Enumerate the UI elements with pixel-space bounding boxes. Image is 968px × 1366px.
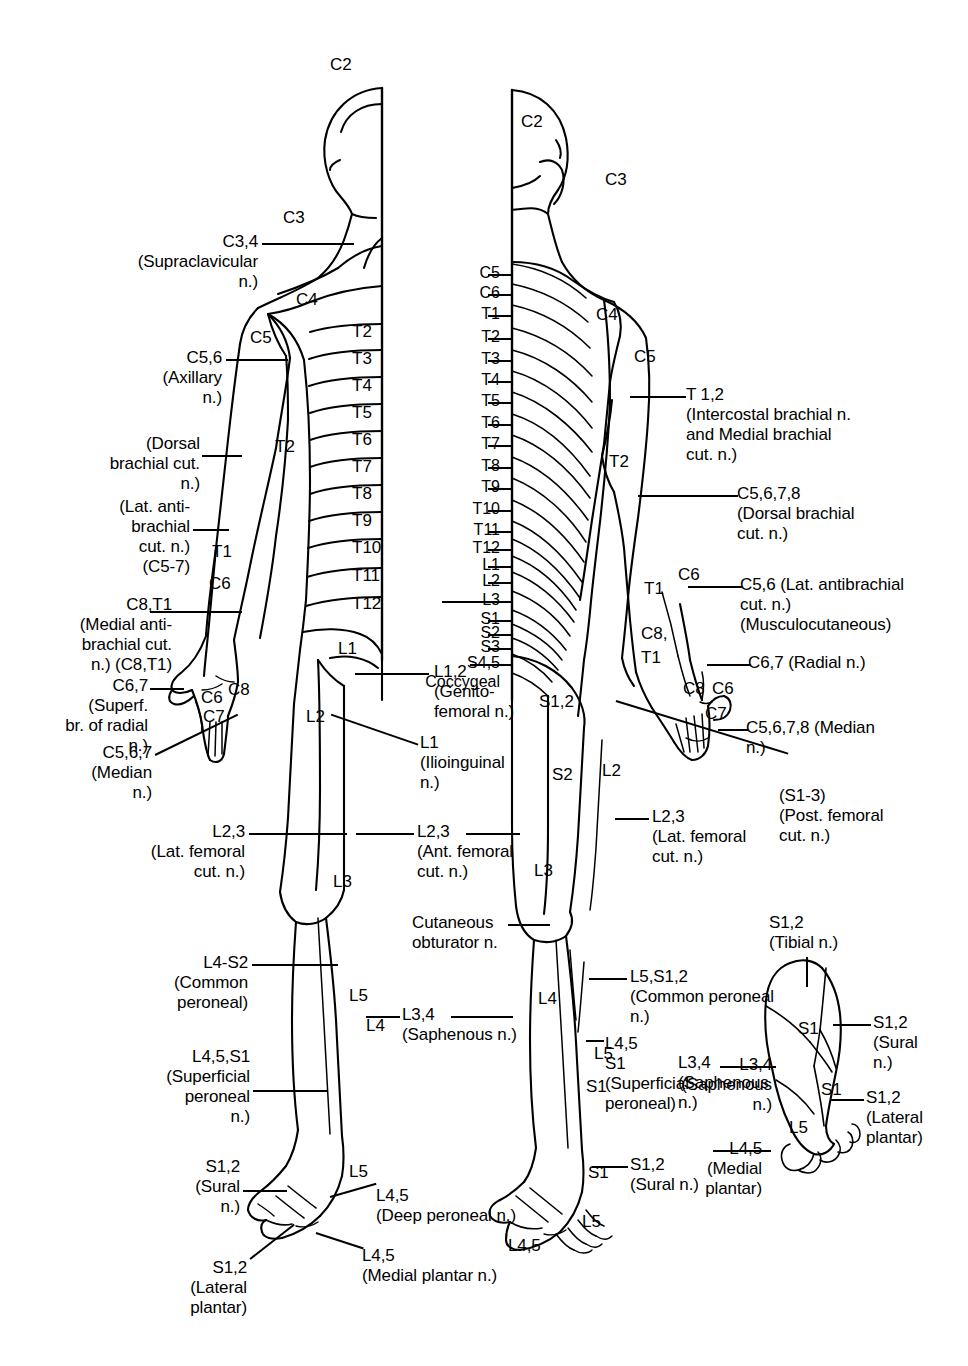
callout-medial-plantar-foot-line-1: (Medial (705, 1159, 762, 1179)
callout-c56-axillary: C5,6(Axillaryn.) (162, 348, 222, 408)
callout-deep-peroneal-line-0: L4,5 (376, 1186, 516, 1206)
callout-genitofemoral-leader (355, 673, 429, 675)
callout-sural-left-line-1: (Sural (195, 1177, 240, 1197)
callout-ilioinguinal-line-1: (Ilioinguinal (420, 753, 505, 773)
callout-lateral-plantar-left-line-0: S1,2 (190, 1258, 247, 1278)
callout-c56-axillary-line-1: (Axillary (162, 368, 222, 388)
spine-level-t5: T5 (481, 392, 500, 410)
callout-medial-antibrachial-cut-line-3: n.) (C8,T1) (80, 655, 172, 675)
foot-segment-s1: S1 (798, 1019, 819, 1039)
callout-superficial-peroneal-left: L4,5,S1(Superficialperonealn.) (166, 1047, 250, 1127)
callout-cutaneous-obturator: Cutaneousobturator n. (412, 913, 498, 953)
callout-radial-n: C6,7 (Radial n.) (748, 653, 865, 673)
callout-saphenous-center-leader-left (366, 1016, 400, 1018)
posterior-segment-c5: C5 (634, 347, 656, 367)
callout-median-n-right-line-0: C5,6,7,8 (Median (746, 718, 875, 738)
callout-dorsal-brachial-cut-right: C5,6,7,8(Dorsal brachialcut. n.) (737, 484, 854, 544)
callout-dorsal-brachial-cut-leader (202, 455, 242, 457)
callout-lat-femoral-cut-post-line-1: (Lat. femoral (652, 827, 746, 847)
callout-dorsal-brachial-cut-line-1: brachial cut. (110, 454, 200, 474)
spine-level-c5: C5 (480, 264, 500, 282)
callout-lat-antibrachial-cut-line-0: (Lat. anti- (119, 497, 190, 517)
callout-superficial-peroneal-left-line-2: peroneal (166, 1087, 250, 1107)
callout-medial-antibrachial-cut-line-2: brachial cut. (80, 635, 172, 655)
callout-lat-antibrachial-cut-line-1: brachial (119, 517, 190, 537)
anterior-band-t3: T3 (352, 349, 372, 369)
callout-genitofemoral-line-2: femoral n.) (434, 702, 514, 722)
anterior-segment-l5: L5 (349, 1162, 368, 1182)
callout-intercostal-brachial-leader (630, 396, 686, 398)
callout-medial-antibrachial-cut-leader (150, 611, 242, 613)
callout-common-peroneal-left-line-2: peroneal) (174, 993, 248, 1013)
callout-cutaneous-obturator-leader (508, 924, 550, 926)
posterior-segment-c3: C3 (605, 170, 627, 190)
callout-lat-femoral-cut-ant: L2,3(Lat. femoralcut. n.) (151, 822, 245, 882)
callout-superficial-peroneal-left-line-3: n.) (166, 1107, 250, 1127)
callout-ilioinguinal-line-0: L1 (420, 733, 505, 753)
callout-radial-n-leader (707, 664, 751, 666)
callout-superficial-peroneal-right-leader (586, 1040, 604, 1042)
callout-ant-femoral-cut-line-2: cut. n.) (417, 862, 513, 882)
callout-post-femoral-cut-line-0: (S1-3) (779, 786, 883, 806)
callout-saphenous-center: L3,4(Saphenous n.) (402, 1005, 517, 1045)
callout-intercostal-brachial-line-2: and Medial brachial (686, 425, 851, 445)
callout-superficial-peroneal-right-line-3: peroneal) (605, 1094, 689, 1114)
callout-sural-n-foot-line-1: (Sural (873, 1033, 918, 1053)
callout-c34-supraclavicular: C3,4(Supraclavicularn.) (138, 232, 258, 292)
callout-intercostal-brachial: T 1,2(Intercostal brachial n.and Medial … (686, 385, 851, 465)
spine-leader-line (488, 360, 512, 362)
anterior-segment-c2: C2 (330, 55, 352, 75)
spine-level-t11: T11 (474, 521, 500, 539)
callout-lateral-plantar-left-line-2: plantar) (190, 1298, 247, 1318)
callout-sural-n-foot-line-2: n.) (873, 1053, 918, 1073)
callout-ilioinguinal: L1(Ilioinguinaln.) (420, 733, 505, 793)
spine-level-t9: T9 (481, 478, 500, 496)
posterior-segment-t1: T1 (644, 579, 664, 599)
posterior-segment-c7: C7 (705, 704, 727, 724)
posterior-segment-s1-2: S1,2 (539, 692, 574, 712)
spine-leader-line (488, 402, 512, 404)
spine-level-t1: T1 (481, 305, 500, 323)
callout-medial-antibrachial-cut-line-1: (Medial anti- (80, 615, 172, 635)
spine-leader-line (488, 381, 512, 383)
callout-common-peroneal-left: L4-S2(Commonperoneal) (174, 953, 248, 1013)
callout-dorsal-brachial-cut-line-2: n.) (110, 474, 200, 494)
callout-medial-plantar-n: L4,5(Medial plantar n.) (362, 1246, 497, 1286)
callout-common-peroneal-left-line-0: L4-S2 (174, 953, 248, 973)
callout-lat-femoral-cut-ant-line-1: (Lat. femoral (151, 842, 245, 862)
anterior-segment-c3: C3 (283, 208, 305, 228)
spine-level-t10: T10 (472, 500, 500, 518)
callout-c34-supraclavicular-line-0: C3,4 (138, 232, 258, 252)
posterior-segment-c8-: C8, (641, 624, 667, 644)
spine-leader-line (488, 445, 512, 447)
callout-median-n: C5,6,7(Mediann.) (91, 743, 152, 803)
anterior-segment-l1: L1 (338, 639, 357, 659)
callout-median-n-right-leader (718, 729, 748, 731)
posterior-segment-l3: L3 (534, 861, 553, 881)
callout-common-peroneal-right: L5,S1,2(Common peronealn.) (630, 967, 774, 1027)
spine-leader-line (488, 531, 512, 533)
callout-median-n-right-line-1: n.) (746, 738, 875, 758)
callout-medial-plantar-n-line-1: (Medial plantar n.) (362, 1266, 497, 1286)
callout-superf-br-radial-line-1: (Superf. (65, 696, 148, 716)
callout-post-femoral-cut: (S1-3)(Post. femoralcut. n.) (779, 786, 883, 846)
callout-ant-femoral-cut: L2,3(Ant. femoralcut. n.) (417, 822, 513, 882)
spine-leader-line (488, 424, 512, 426)
callout-genitofemoral-line-1: (Genito- (434, 682, 514, 702)
foot-segment-s1: S1 (821, 1080, 842, 1100)
callout-sural-right-leader (592, 1166, 628, 1168)
callout-common-peroneal-left-line-1: (Common (174, 973, 248, 993)
anterior-band-t8: T8 (352, 484, 372, 504)
callout-lateral-plantar-foot-line-1: (Lateral (866, 1108, 923, 1128)
anterior-band-t6: T6 (352, 430, 372, 450)
callout-common-peroneal-right-leader (589, 978, 627, 980)
posterior-segment-c6: C6 (678, 565, 700, 585)
callout-lat-femoral-cut-ant-line-0: L2,3 (151, 822, 245, 842)
callout-lat-femoral-cut-post-leader (615, 818, 649, 820)
callout-sural-right-line-0: S1,2 (630, 1155, 699, 1175)
spine-level-l3: L3 (482, 591, 500, 609)
callout-tibial-n-line-1: (Tibial n.) (769, 933, 838, 953)
callout-l45-bottom-line-0: L4,5 (508, 1236, 541, 1256)
callout-saphenous-center-line-1: (Saphenous n.) (402, 1025, 517, 1045)
callout-medial-plantar-foot: L4,5(Medialplantar) (705, 1139, 762, 1199)
